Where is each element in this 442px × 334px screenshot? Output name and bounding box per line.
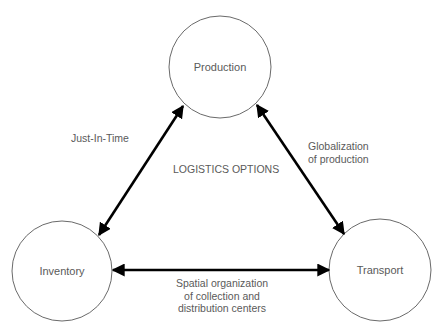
inventory-node-label: Inventory	[39, 265, 84, 277]
spatial-organization-label: Spatial organization of collection and d…	[168, 277, 276, 315]
production-inventory-arrow	[99, 106, 183, 235]
logistics-options-diagram: Production Inventory Transport Just-In-T…	[0, 0, 442, 334]
diagram-title: LOGISTICS OPTIONS	[173, 163, 279, 176]
production-node-label: Production	[194, 61, 247, 73]
globalization-label: Globalization of production	[308, 140, 369, 165]
transport-node-label: Transport	[357, 264, 404, 276]
just-in-time-label: Just-In-Time	[71, 132, 129, 145]
